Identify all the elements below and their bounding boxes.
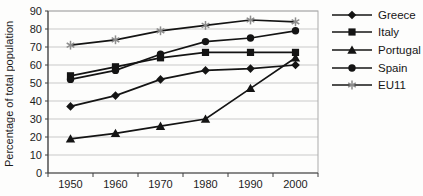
plot-border — [48, 11, 318, 173]
x-tick-label: 1950 — [58, 178, 82, 190]
circle-marker-icon — [202, 38, 209, 45]
y-tick-label: 50 — [30, 77, 42, 89]
legend-swatch-svg — [331, 8, 373, 22]
diamond-marker-icon — [66, 102, 75, 111]
legend-label-greece: Greece — [378, 9, 416, 21]
x-tick-label: 1980 — [193, 178, 217, 190]
y-tick-label: 20 — [30, 131, 42, 143]
diamond-marker-icon — [291, 61, 300, 70]
circle-marker-icon — [247, 34, 254, 41]
series-line — [71, 20, 296, 45]
legend-item-greece: Greece — [331, 6, 421, 24]
y-tick-label: 70 — [30, 41, 42, 53]
italy-square-marker-icon — [331, 25, 373, 39]
y-tick-label: 30 — [30, 113, 42, 125]
circle-marker-icon — [292, 27, 299, 34]
series-greece — [66, 61, 300, 111]
square-marker-icon — [202, 49, 209, 56]
eu11-asterisk-marker-icon — [331, 78, 373, 92]
x-tick-label: 2000 — [283, 178, 307, 190]
greece-diamond-marker-icon — [331, 8, 373, 22]
series-eu11 — [67, 16, 300, 50]
legend-item-italy: Italy — [331, 24, 421, 42]
legend-label-spain: Spain — [378, 62, 407, 74]
circle-marker-icon — [67, 76, 74, 83]
diamond-marker-icon — [348, 10, 357, 19]
legend-label-eu11: EU11 — [378, 79, 406, 91]
diamond-marker-icon — [156, 75, 165, 84]
chart-area: 0102030405060708090195019601970198019902… — [0, 0, 331, 196]
square-marker-icon — [348, 29, 355, 36]
y-tick-label: 40 — [30, 95, 42, 107]
legend-label-italy: Italy — [378, 26, 399, 38]
legend-swatch-svg — [331, 25, 373, 39]
portugal-triangle-marker-icon — [331, 43, 373, 57]
y-tick-label: 60 — [30, 59, 42, 71]
urban-population-line-chart-figure: Percentage of total population 010203040… — [0, 0, 423, 196]
legend-swatch-svg — [331, 43, 373, 57]
circle-marker-icon — [348, 64, 355, 71]
legend-item-eu11: EU11 — [331, 76, 421, 94]
y-tick-label: 80 — [30, 23, 42, 35]
x-tick-label: 1990 — [238, 178, 262, 190]
legend-item-portugal: Portugal — [331, 41, 421, 59]
y-tick-label: 90 — [30, 5, 42, 17]
circle-marker-icon — [112, 67, 119, 74]
chart-legend: Greece Italy Portugal Spain EU11 — [331, 6, 421, 94]
triangle-marker-icon — [246, 84, 255, 92]
line-chart: 0102030405060708090195019601970198019902… — [0, 0, 331, 196]
spain-circle-marker-icon — [331, 61, 373, 75]
diamond-marker-icon — [246, 64, 255, 73]
legend-item-spain: Spain — [331, 59, 421, 77]
x-tick-label: 1960 — [103, 178, 127, 190]
x-tick-label: 1970 — [148, 178, 172, 190]
legend-swatch-svg — [331, 78, 373, 92]
series-line — [71, 65, 296, 106]
square-marker-icon — [247, 49, 254, 56]
legend-swatch-svg — [331, 61, 373, 75]
y-tick-label: 0 — [36, 167, 42, 179]
legend-label-portugal: Portugal — [378, 44, 421, 56]
diamond-marker-icon — [111, 91, 120, 100]
y-tick-label: 10 — [30, 149, 42, 161]
circle-marker-icon — [157, 51, 164, 58]
diamond-marker-icon — [201, 66, 210, 75]
